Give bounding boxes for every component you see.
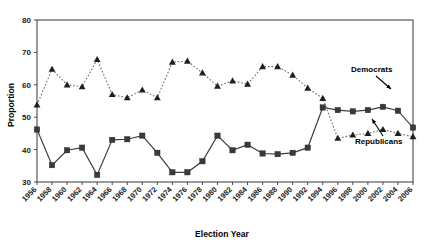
- y-tick-label: 80: [22, 16, 31, 25]
- y-tick-label: 40: [22, 146, 31, 155]
- data-point-republicans: [49, 162, 54, 167]
- data-point-republicans: [335, 107, 340, 112]
- data-point-republicans: [140, 133, 145, 138]
- data-point-republicans: [350, 109, 355, 114]
- data-point-republicans: [110, 137, 115, 142]
- data-point-republicans: [64, 148, 69, 153]
- y-tick-label: 60: [22, 81, 31, 90]
- data-point-republicans: [410, 125, 415, 130]
- chart-container: 304050607080 195619581960196219641966196…: [0, 0, 428, 243]
- x-axis-title: Election Year: [195, 229, 249, 239]
- election-proportion-line-chart: 304050607080 195619581960196219641966196…: [0, 0, 428, 243]
- annotation-label-republicans: Republicans: [355, 137, 403, 146]
- data-point-republicans: [230, 148, 235, 153]
- y-tick-label: 50: [22, 113, 31, 122]
- data-point-republicans: [34, 127, 39, 132]
- data-point-republicans: [380, 104, 385, 109]
- data-point-republicans: [155, 150, 160, 155]
- chart-background: [0, 0, 428, 243]
- data-point-republicans: [185, 170, 190, 175]
- data-point-republicans: [170, 170, 175, 175]
- data-point-republicans: [275, 151, 280, 156]
- data-point-republicans: [215, 133, 220, 138]
- data-point-republicans: [125, 137, 130, 142]
- y-axis-title: Proportion: [6, 83, 16, 127]
- data-point-republicans: [260, 151, 265, 156]
- y-tick-label: 70: [22, 48, 31, 57]
- data-point-republicans: [365, 107, 370, 112]
- data-point-republicans: [305, 145, 310, 150]
- data-point-republicans: [320, 105, 325, 110]
- data-point-republicans: [395, 108, 400, 113]
- annotation-label-democrats: Democrats: [351, 65, 393, 74]
- data-point-republicans: [200, 159, 205, 164]
- data-point-republicans: [94, 172, 99, 177]
- data-point-republicans: [290, 150, 295, 155]
- data-point-republicans: [79, 145, 84, 150]
- data-point-republicans: [245, 142, 250, 147]
